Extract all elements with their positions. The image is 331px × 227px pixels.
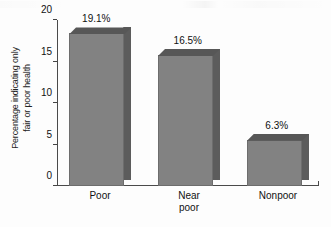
y-tick-label-15: 15 — [30, 47, 52, 57]
plot-area: 0 5 10 15 20 19.1% — [57, 20, 319, 186]
x-label-near-poor-line-2: poor — [152, 202, 226, 214]
bar-poor-body — [69, 27, 131, 186]
bar-chart-figure: Percentage indicating only fair or poor … — [0, 0, 331, 227]
bar-poor[interactable]: 19.1% — [69, 27, 131, 186]
x-label-nonpoor: Nonpoor — [241, 190, 315, 202]
x-label-near-poor-line-1: Near — [152, 190, 226, 202]
bar-nonpoor[interactable]: 6.3% — [247, 134, 309, 186]
bar-series: 19.1% 16.5% 6.3% — [57, 20, 319, 186]
y-tick-label-10: 10 — [30, 88, 52, 98]
bar-nonpoor-front — [247, 140, 302, 186]
bar-poor-top — [69, 27, 131, 34]
bar-near-poor-side — [212, 49, 220, 180]
bar-near-poor-front — [158, 55, 213, 186]
y-tick-label-5: 5 — [30, 130, 52, 140]
bar-nonpoor-side — [301, 134, 309, 180]
x-label-poor-line-1: Poor — [63, 190, 137, 202]
y-axis-label-line-2: fair or poor health — [22, 13, 34, 183]
y-axis-label-line-1: Percentage indicating only — [10, 13, 22, 183]
y-tick-label-0: 0 — [30, 171, 52, 181]
y-tick-label-20: 20 — [30, 5, 52, 15]
bar-poor-value-label: 19.1% — [82, 13, 110, 24]
bar-poor-front — [69, 33, 124, 186]
y-axis-label: Percentage indicating only fair or poor … — [10, 13, 38, 183]
bar-near-poor-value-label: 16.5% — [174, 35, 202, 46]
bar-nonpoor-body — [247, 134, 309, 186]
bar-near-poor[interactable]: 16.5% — [158, 49, 220, 186]
bar-nonpoor-value-label: 6.3% — [265, 120, 288, 131]
x-label-poor: Poor — [63, 190, 137, 202]
bar-near-poor-body — [158, 49, 220, 186]
bar-nonpoor-top — [247, 134, 309, 141]
bar-poor-side — [123, 27, 131, 180]
x-label-near-poor: Near poor — [152, 190, 226, 214]
bar-near-poor-top — [158, 49, 220, 56]
x-axis-labels: Poor Near poor Nonpoor — [57, 190, 319, 224]
x-label-nonpoor-line-1: Nonpoor — [241, 190, 315, 202]
